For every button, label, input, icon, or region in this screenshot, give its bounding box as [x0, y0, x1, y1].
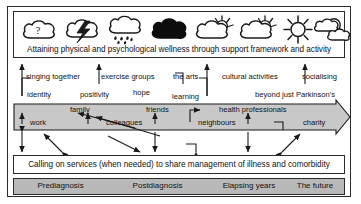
activity-label-0: singing together	[26, 72, 80, 81]
value-label-0: identity	[27, 90, 51, 99]
services-caption: Calling on services (when needed) to sha…	[14, 160, 344, 169]
services-box: Calling on services (when needed) to sha…	[13, 155, 345, 174]
value-label-4: beyond just Parkinson's	[255, 90, 335, 99]
support-label-colleagues: colleagues	[106, 118, 142, 127]
timeline-label-postdiagnosis: Postdiagnosis	[110, 181, 205, 190]
timeline-label-elapsing-years: Elapsing years	[205, 181, 293, 190]
support-label-work: work	[30, 118, 46, 127]
support-label-family: family	[70, 105, 90, 114]
value-label-2: hope	[133, 88, 150, 97]
support-label-health-professionals: health professionals	[219, 105, 287, 114]
activity-label-3: cultural activities	[222, 72, 278, 81]
timeline-label-prediagnosis: Prediagnosis	[13, 181, 108, 190]
activity-label-1: exercise groups	[101, 72, 155, 81]
activity-label-4: socialising	[302, 72, 337, 81]
timeline-label-the-future: The future	[282, 181, 348, 190]
value-label-3: learning	[172, 92, 199, 101]
value-label-1: positivity	[80, 90, 109, 99]
figure-root: ?	[0, 0, 361, 204]
support-label-neighbours: neighbours	[198, 118, 236, 127]
activity-label-2: the arts	[173, 72, 198, 81]
support-label-friends: friends	[146, 105, 169, 114]
support-label-charity: charity	[303, 118, 325, 127]
